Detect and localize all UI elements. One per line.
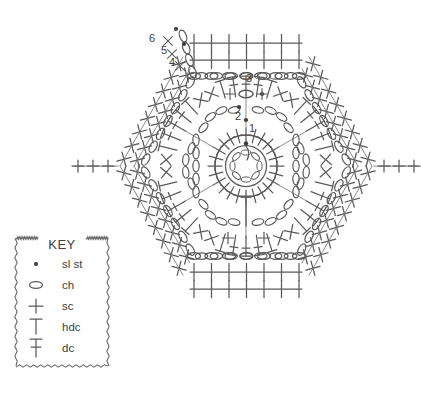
chart-canvas: 123456 KEY sl stchschdcdc bbox=[0, 0, 421, 408]
round-label-6: 6 bbox=[149, 32, 155, 44]
key-label-sc: sc bbox=[62, 300, 74, 312]
round-label-2: 2 bbox=[235, 110, 241, 122]
key-label-ch: ch bbox=[62, 279, 74, 291]
key-label-hdc: hdc bbox=[62, 321, 81, 333]
key-label-dc: dc bbox=[62, 342, 74, 354]
crochet-chart-figure: 123456 KEY sl stchschdcdc bbox=[0, 0, 421, 408]
round-label-3: 3 bbox=[246, 72, 252, 84]
round-label-4: 4 bbox=[169, 56, 175, 68]
sl-st-dot-icon bbox=[34, 262, 38, 266]
round-label-1: 1 bbox=[249, 122, 255, 134]
round-label-5: 5 bbox=[161, 44, 167, 56]
key-title: KEY bbox=[48, 237, 76, 252]
key-label-sl-st: sl st bbox=[62, 258, 83, 270]
